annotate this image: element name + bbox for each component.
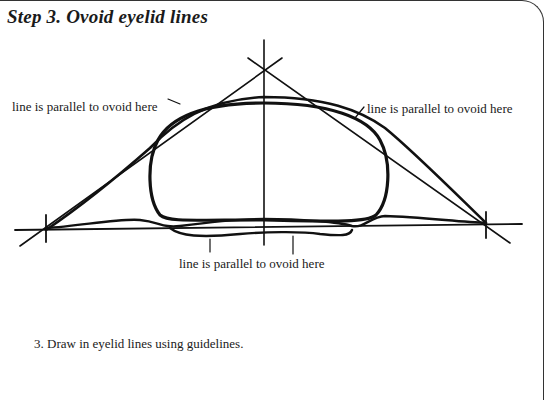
left-diagonal-guideline [20,58,282,246]
horizontal-guideline [15,224,522,230]
annotation-left: line is parallel to ovoid here [12,99,157,115]
annotation-right: line is parallel to ovoid here [367,101,512,117]
right-diagonal-guideline [248,58,510,243]
step-caption: 3. Draw in eyelid lines using guidelines… [34,336,243,352]
lower-eyelid-line-bottom [170,228,352,236]
ovoid [150,103,388,221]
annotation-bottom: line is parallel to ovoid here [179,256,324,272]
leader-left [168,99,180,104]
